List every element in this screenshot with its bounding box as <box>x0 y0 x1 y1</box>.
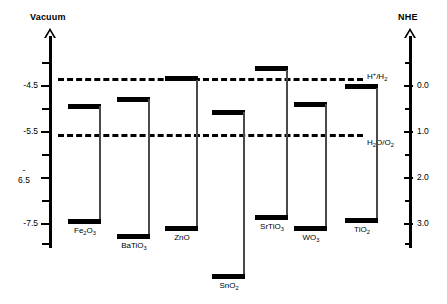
band-stem-fe2o3 <box>99 106 101 221</box>
nhe-tick-3.0 <box>404 223 413 225</box>
material-label-tio2: TiO2 <box>340 225 384 234</box>
band-diagram-figure: Vacuum -4.5 -5.5 - 6.5 -7.5 NHE 0.0 1.0 … <box>0 0 447 304</box>
valence-band-sno2 <box>212 274 245 279</box>
material-label-wo3: WO3 <box>288 233 334 242</box>
redox-label-hydrogen: H+/H2 <box>367 72 387 81</box>
nhe-tick-label-2.0: 2.0 <box>417 172 429 182</box>
band-stem-tio2 <box>376 88 378 220</box>
valence-band-batio3 <box>117 234 150 239</box>
valence-band-zno <box>165 226 198 231</box>
band-stem-srtio3 <box>286 70 288 217</box>
conduction-band-srtio3 <box>255 66 288 71</box>
nhe-tick-0.0 <box>404 85 413 87</box>
nhe-tick-label-0.0: 0.0 <box>417 80 429 90</box>
vacuum-tick-label-6.5: 6.5 <box>12 176 36 185</box>
material-label-srtio3: SrTiO3 <box>246 222 298 231</box>
vacuum-tick-minor <box>42 108 49 110</box>
vacuum-tick-minor <box>42 154 49 156</box>
vacuum-axis-line <box>49 36 52 248</box>
vacuum-tick-4.5 <box>41 85 50 87</box>
nhe-tick-minor <box>405 154 412 156</box>
nhe-tick-1.0 <box>404 131 413 133</box>
material-label-batio3: BaTiO3 <box>107 241 161 250</box>
valence-band-tio2 <box>345 218 378 223</box>
vacuum-tick-minor <box>42 243 49 245</box>
nhe-tick-minor <box>405 243 412 245</box>
vacuum-tick-minor <box>42 200 49 202</box>
material-label-fe2o3: Fe2O3 <box>62 226 108 235</box>
vacuum-tick-label-4.5: -4.5 <box>10 80 38 90</box>
material-label-sno2: SnO2 <box>205 281 253 290</box>
nhe-tick-minor <box>405 108 412 110</box>
nhe-axis-line <box>409 36 412 248</box>
redox-label-hydrogen-text: H+/H2 <box>367 72 387 81</box>
band-stem-zno <box>196 80 198 228</box>
valence-band-srtio3 <box>255 215 288 220</box>
vacuum-tick-label-7.5: -7.5 <box>10 218 38 228</box>
valence-band-fe2o3 <box>68 219 101 224</box>
nhe-tick-label-1.0: 1.0 <box>417 126 429 136</box>
vacuum-tick-label-6.5-dash: - <box>12 166 36 175</box>
vacuum-axis-title: Vacuum <box>30 12 66 22</box>
nhe-tick-minor <box>405 200 412 202</box>
redox-label-oxygen: H2O/O2 <box>367 138 394 147</box>
conduction-band-wo3 <box>294 102 327 107</box>
conduction-band-sno2 <box>212 110 245 115</box>
nhe-tick-minor <box>405 62 412 64</box>
vacuum-tick-5.5 <box>41 131 50 133</box>
band-stem-batio3 <box>148 99 150 236</box>
material-label-zno: ZnO <box>160 233 204 242</box>
vacuum-tick-label-5.5: -5.5 <box>10 126 38 136</box>
nhe-tick-2.0 <box>404 177 413 179</box>
redox-line-hydrogen <box>58 78 363 81</box>
nhe-tick-label-3.0: 3.0 <box>417 218 429 228</box>
conduction-band-zno <box>165 76 198 81</box>
vacuum-tick-6.5 <box>41 177 50 179</box>
conduction-band-tio2 <box>345 84 378 89</box>
vacuum-tick-7.5 <box>41 223 50 225</box>
conduction-band-fe2o3 <box>68 104 101 109</box>
band-stem-sno2 <box>243 112 245 276</box>
conduction-band-batio3 <box>117 97 150 102</box>
redox-line-oxygen <box>58 134 363 137</box>
vacuum-tick-minor <box>42 62 49 64</box>
nhe-axis-title: NHE <box>398 12 418 22</box>
band-stem-wo3 <box>325 104 327 228</box>
redox-label-oxygen-text: H2O/O2 <box>367 138 394 147</box>
valence-band-wo3 <box>294 226 327 231</box>
